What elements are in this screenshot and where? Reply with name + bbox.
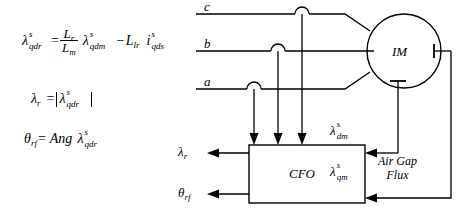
flux-dm-subscript: dm — [337, 132, 348, 141]
eq1-frac-num-subscript: r — [71, 33, 75, 43]
eq2-lhs-subscript: r — [37, 98, 41, 108]
eq1-lhs-subscript: qdr — [29, 42, 42, 51]
flux-dm-symbol: λ — [330, 124, 336, 137]
eq1-frac-den-subscript: m — [69, 47, 76, 57]
eq3-arg-symbol: λ — [77, 132, 83, 146]
output-lambda-symbol: λ — [178, 145, 184, 158]
eq1-t4-superscript: s — [151, 30, 155, 39]
eq3-lhs-subscript: rf — [31, 138, 37, 148]
output-label-theta-rf: θrf — [178, 186, 190, 199]
arrowhead-current-b — [274, 133, 283, 145]
current-sensor-hop-c — [295, 7, 309, 14]
phase-label-a: a — [204, 75, 211, 88]
air-gap-flux-line1: Air Gap — [378, 155, 417, 169]
arrowhead-flux-dm — [365, 149, 377, 158]
output-label-lambda-r: λr — [178, 145, 187, 158]
phase-line-c-to-motor — [309, 14, 370, 31]
air-gap-flux-line2: Flux — [378, 169, 417, 183]
output-lambda-subscript: r — [184, 151, 188, 161]
air-gap-flux-annotation: Air Gap Flux — [378, 155, 417, 183]
eq2-arg-subscript: qdr — [67, 100, 80, 109]
eq2-equals: = — [46, 91, 56, 106]
cfo-label: CFO — [289, 167, 315, 180]
current-sensor-hop-b — [271, 44, 285, 51]
eq1-lhs-symbol: λ — [22, 34, 28, 48]
eq1-fraction: LrLm — [60, 27, 78, 54]
eq3-lhs-symbol: θ — [24, 132, 31, 146]
eq1-minus: − — [116, 33, 126, 48]
eq1-t3-subscript: lr — [134, 40, 140, 50]
eq3-operator: Ang — [50, 131, 73, 146]
arrowhead-current-c — [298, 133, 307, 145]
arrowhead-flux-qm — [365, 194, 377, 203]
arrowhead-output-theta-rf — [207, 190, 219, 199]
eq3-arg-superscript: s — [84, 128, 88, 137]
phase-label-b: b — [204, 37, 211, 50]
eq2-arg-symbol: λ — [60, 92, 66, 106]
current-sensor-hop-a — [247, 82, 261, 89]
arrowhead-current-a — [250, 133, 259, 145]
flux-input-label-qm: λsqm — [330, 165, 336, 178]
arrowhead-output-lambda-r — [207, 149, 219, 158]
equation-rotor-flux-angle: θrf=Angλsqdr — [24, 132, 83, 146]
equation-rotor-flux-magnitude: λr=λsqdr — [31, 92, 92, 107]
eq2-absolute-value: λsqdr — [56, 92, 92, 107]
eq1-equals: = — [50, 33, 60, 48]
eq1-t2-subscript: qdm — [90, 42, 106, 51]
flux-qm-superscript: s — [337, 161, 341, 170]
diagram-canvas: λsqdr=LrLmλsqdm−Llrisqds λr=λsqdr θrf=An… — [0, 0, 466, 213]
phase-label-c: c — [204, 0, 210, 13]
eq1-t4-subscript: qds — [151, 42, 164, 51]
flux-input-label-dm: λsdm — [330, 124, 336, 137]
motor-label: IM — [392, 45, 407, 58]
eq1-t2-superscript: s — [90, 30, 94, 39]
eq1-t3-symbol: L — [126, 33, 134, 48]
eq3-arg-subscript: qdr — [84, 140, 97, 149]
eq1-lhs-superscript: s — [29, 30, 33, 39]
equation-rotor-flux-linkage: λsqdr=LrLmλsqdm−Llrisqds — [22, 28, 150, 55]
eq1-t4-symbol: i — [147, 33, 151, 48]
eq1-frac-num-symbol: L — [63, 26, 70, 41]
eq2-arg-superscript: s — [67, 88, 71, 97]
output-theta-subscript: rf — [184, 192, 190, 202]
flux-qm-subscript: qm — [337, 173, 348, 182]
eq3-equals: = — [37, 131, 47, 146]
flux-dm-superscript: s — [337, 120, 341, 129]
flux-qm-symbol: λ — [330, 165, 336, 178]
eq2-term-magnetizing-symbol: λ — [83, 34, 89, 48]
